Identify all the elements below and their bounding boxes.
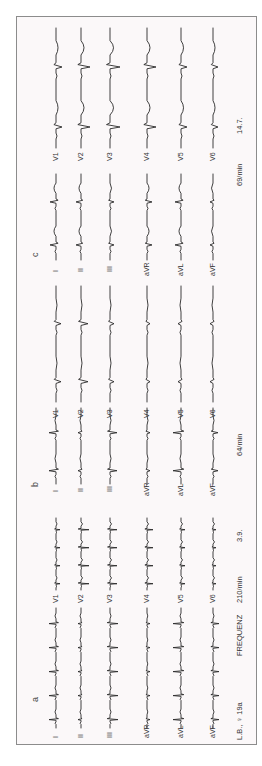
ecg-trace [55, 518, 60, 590]
ecg-trace [109, 174, 114, 260]
ecg-trace [146, 408, 150, 484]
lead-label: V2 [77, 594, 84, 603]
lead-label: I [52, 270, 59, 272]
lead-label: III [106, 266, 113, 272]
date-a: 3.9. [236, 529, 244, 542]
ecg-trace [49, 608, 58, 728]
ecg-trace [145, 518, 153, 590]
panel-label-c: c [31, 253, 40, 258]
lead-label: V2 [77, 409, 84, 418]
ecg-trace [146, 286, 150, 402]
ecg-figure-rotated-content: a I II III aVR aVL aVF V1 V2 V3 V4 V5 V6… [17, 17, 257, 745]
ecg-trace [146, 608, 150, 728]
lead-label: V5 [177, 594, 184, 603]
ecg-trace [54, 28, 62, 148]
lead-label: V1 [52, 409, 59, 418]
ecg-trace [179, 28, 187, 148]
ecg-trace [210, 286, 214, 402]
ecg-figure-frame: a I II III aVR aVL aVF V1 V2 V3 V4 V5 V6… [16, 16, 257, 745]
lead-label: aVL [177, 484, 184, 496]
patient-id: L.B., ♀ 19a [236, 702, 244, 740]
ecg-trace [175, 174, 183, 260]
lead-label: II [77, 488, 84, 492]
ecg-trace [54, 286, 61, 402]
lead-label: aVR [143, 482, 150, 496]
lead-label: V2 [77, 152, 84, 161]
lead-label: V1 [52, 152, 59, 161]
lead-label: aVR [143, 724, 150, 738]
lead-label: V3 [106, 594, 113, 603]
panel-label-b: b [31, 482, 40, 487]
ecg-trace [211, 28, 218, 148]
lead-label: V6 [209, 152, 216, 161]
lead-label: aVF [209, 725, 216, 738]
panel-label-a: a [31, 697, 40, 702]
lead-label: V4 [143, 152, 150, 161]
ecg-trace [50, 174, 58, 260]
lead-label: V1 [52, 594, 59, 603]
ecg-trace [145, 174, 152, 260]
lead-label: III [106, 486, 113, 492]
ecg-trace [76, 174, 83, 260]
ecg-trace [78, 518, 89, 590]
rate-a: 210/min [236, 576, 244, 603]
ecg-trace [178, 286, 182, 402]
lead-label: II [77, 734, 84, 738]
lead-label: aVL [177, 726, 184, 738]
lead-label: aVF [209, 263, 216, 276]
ecg-trace [49, 408, 58, 484]
lead-label: V4 [143, 409, 150, 418]
lead-label: aVL [177, 264, 184, 276]
lead-label: aVR [143, 262, 150, 276]
ecg-trace [212, 518, 216, 590]
ecg-trace [107, 608, 118, 728]
lead-label: V3 [106, 409, 113, 418]
ecg-trace [144, 28, 156, 148]
ecg-trace [211, 408, 218, 484]
lead-label: V4 [143, 594, 150, 603]
lead-label: V5 [177, 409, 184, 418]
lead-label: V3 [106, 152, 113, 161]
rate-b: 64/min [236, 433, 244, 456]
lead-label: III [106, 732, 113, 738]
ecg-trace [78, 608, 82, 728]
lead-label: V5 [177, 152, 184, 161]
lead-label: aVF [209, 483, 216, 496]
ecg-trace [78, 408, 82, 484]
ecg-trace [109, 286, 114, 402]
ecg-trace [108, 518, 117, 590]
ecg-trace [107, 28, 121, 148]
lead-label: I [52, 490, 59, 492]
rate-label: FREQUENZ [236, 615, 244, 656]
rate-c: 69/min [236, 163, 244, 186]
ecg-trace [173, 408, 184, 484]
ecg-trace [79, 286, 88, 402]
ecg-trace [173, 608, 184, 728]
ecg-trace [210, 174, 214, 260]
lead-label: II [77, 268, 84, 272]
lead-label: V6 [209, 594, 216, 603]
ecg-trace [211, 608, 219, 728]
ecg-trace [78, 28, 90, 148]
date-c: 14.7. [236, 117, 244, 134]
lead-label: I [52, 736, 59, 738]
ecg-traces [17, 17, 257, 745]
ecg-trace [108, 408, 117, 484]
lead-label: V6 [209, 409, 216, 418]
ecg-trace [180, 518, 185, 590]
